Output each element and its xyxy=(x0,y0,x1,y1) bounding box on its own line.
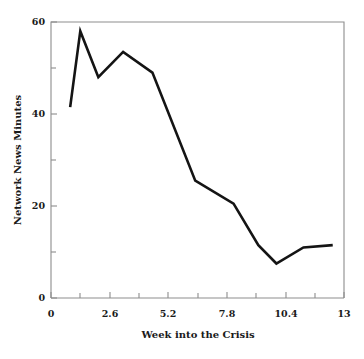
chart-container: 60 40 20 0 0 2.6 5.2 7.8 10.4 13 Week in… xyxy=(0,0,364,359)
y-tick-label-60: 60 xyxy=(32,16,46,27)
y-tick-label-40: 40 xyxy=(32,108,46,119)
y-axis-title: Network News Minutes xyxy=(12,94,23,225)
x-tick-label-5.2: 5.2 xyxy=(160,308,177,319)
data-series-line xyxy=(70,31,333,263)
y-tick-label-20: 20 xyxy=(32,200,46,211)
x-axis-title: Week into the Crisis xyxy=(140,329,255,340)
plot-frame-path xyxy=(51,22,344,298)
y-tick-label-0: 0 xyxy=(38,292,45,303)
line-chart-svg: 60 40 20 0 0 2.6 5.2 7.8 10.4 13 Week in… xyxy=(0,0,364,359)
y-axis-ticks xyxy=(51,22,57,298)
y-tick-labels: 60 40 20 0 xyxy=(32,16,46,303)
x-tick-label-2.6: 2.6 xyxy=(102,308,119,319)
x-tick-label-7.8: 7.8 xyxy=(219,308,236,319)
x-tick-label-13: 13 xyxy=(337,308,350,319)
x-tick-label-10.4: 10.4 xyxy=(274,308,298,319)
x-tick-label-0: 0 xyxy=(48,308,55,319)
plot-frame xyxy=(51,22,344,298)
x-tick-labels: 0 2.6 5.2 7.8 10.4 13 xyxy=(48,308,351,319)
x-axis-ticks xyxy=(51,292,344,298)
